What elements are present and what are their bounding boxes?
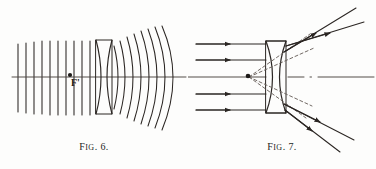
figure-plate: F' FIG. 6. (0, 0, 376, 169)
focal-point-marker (246, 74, 251, 79)
refracted-ray-group (284, 8, 364, 152)
curved-wavefront-group (114, 26, 173, 130)
caption-smallcaps: IG (273, 143, 282, 152)
focal-point-label: F' (71, 78, 80, 88)
virtual-ray-group (249, 34, 314, 118)
caption-suffix: . 7. (283, 141, 297, 152)
figure-7-caption: FIG. 7. (188, 141, 376, 152)
biconcave-lens (266, 41, 286, 113)
figure-6: F' FIG. 6. (0, 0, 188, 169)
figure-7: F' FIG. 7. (188, 0, 376, 169)
caption-suffix: . 6. (95, 141, 109, 152)
caption-smallcaps: IG (85, 143, 94, 152)
incident-ray-group (188, 44, 266, 110)
figure-6-caption: FIG. 6. (0, 141, 188, 152)
